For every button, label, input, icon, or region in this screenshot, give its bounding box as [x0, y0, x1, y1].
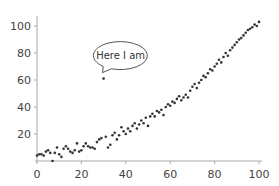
data-point — [196, 87, 199, 90]
data-point — [251, 26, 254, 29]
scatter-chart: 20406080100 020406080100 Here I am — [0, 0, 279, 186]
data-point — [198, 81, 201, 84]
data-point — [87, 145, 90, 148]
data-point — [200, 79, 203, 82]
data-point — [65, 145, 68, 148]
data-point — [258, 21, 261, 24]
data-point — [255, 25, 258, 28]
data-point — [160, 108, 163, 111]
data-point — [165, 106, 168, 109]
y-axis: 20406080100 — [10, 16, 37, 161]
data-point — [229, 49, 232, 52]
data-point — [69, 150, 72, 153]
data-point — [78, 150, 81, 153]
data-point — [222, 56, 225, 59]
data-point — [40, 153, 43, 156]
annotation-text: Here I am — [96, 50, 145, 61]
y-tick-label: 40 — [17, 101, 31, 114]
x-tick-label: 100 — [249, 168, 270, 181]
data-point — [147, 125, 150, 128]
data-point — [249, 27, 252, 30]
data-point — [118, 134, 121, 137]
data-point — [238, 38, 241, 41]
data-point — [216, 63, 219, 66]
x-ticks: 020406080100 — [34, 161, 270, 181]
data-point — [202, 75, 205, 78]
y-tick-label: 80 — [17, 47, 31, 60]
data-point — [156, 110, 159, 113]
data-point — [224, 52, 227, 55]
x-tick-label: 20 — [74, 168, 88, 181]
speech-bubble-annotation: Here I am — [93, 42, 147, 73]
data-point — [80, 149, 83, 152]
data-point — [60, 156, 63, 159]
data-point — [85, 142, 88, 145]
data-point — [142, 122, 145, 125]
data-point — [109, 144, 112, 147]
y-ticks: 20406080100 — [10, 20, 37, 141]
x-tick-label: 0 — [34, 168, 41, 181]
data-point — [244, 32, 247, 35]
data-point — [56, 146, 59, 149]
data-point — [180, 99, 183, 102]
data-point — [45, 150, 48, 153]
data-point — [240, 37, 243, 40]
data-point — [125, 133, 128, 136]
data-point — [47, 149, 50, 152]
data-point — [36, 154, 39, 157]
data-point — [247, 29, 250, 32]
data-point — [220, 61, 223, 64]
data-point — [158, 111, 161, 114]
data-point — [116, 138, 119, 141]
data-point — [67, 148, 70, 151]
data-point — [127, 127, 130, 130]
data-point — [62, 148, 65, 151]
data-point — [51, 160, 54, 163]
data-point — [149, 115, 152, 118]
data-point — [105, 135, 108, 138]
data-point — [122, 130, 125, 133]
data-point — [171, 100, 174, 103]
data-point — [151, 113, 154, 116]
data-point — [58, 153, 61, 156]
data-point — [211, 69, 214, 72]
data-point — [242, 34, 245, 37]
data-point — [204, 76, 207, 79]
data-point — [76, 142, 79, 145]
data-point — [182, 96, 185, 99]
x-tick-label: 60 — [163, 168, 177, 181]
data-point — [49, 152, 52, 155]
data-point — [82, 145, 85, 148]
data-point — [91, 146, 94, 149]
data-point — [131, 125, 134, 128]
data-point — [120, 126, 123, 129]
data-point — [71, 152, 74, 155]
data-point — [42, 154, 45, 157]
data-point — [191, 86, 194, 89]
data-point — [236, 41, 239, 44]
data-point — [145, 117, 148, 120]
data-point — [98, 138, 101, 141]
y-tick-label: 60 — [17, 74, 31, 87]
data-point — [129, 130, 132, 133]
data-point — [187, 96, 190, 99]
y-tick-label: 20 — [17, 128, 31, 141]
data-point — [173, 102, 176, 105]
data-point — [136, 127, 139, 130]
data-point — [169, 104, 172, 107]
data-point — [100, 137, 103, 140]
data-point — [54, 152, 57, 155]
data-point — [111, 134, 114, 137]
data-point — [253, 23, 256, 26]
data-point — [138, 123, 141, 126]
data-point — [107, 146, 110, 149]
data-point — [102, 77, 105, 80]
data-point — [113, 131, 116, 134]
data-point — [93, 148, 96, 151]
x-tick-label: 80 — [208, 168, 222, 181]
data-point — [153, 115, 156, 118]
data-point — [233, 44, 236, 47]
data-point — [189, 90, 192, 93]
data-point — [207, 72, 210, 75]
data-points — [36, 21, 261, 163]
